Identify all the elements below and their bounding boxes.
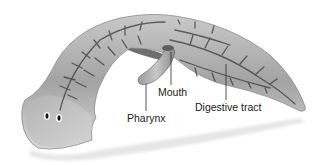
planarian-diagram: Mouth Pharynx Digestive tract (0, 0, 332, 165)
mouth-opening (162, 45, 174, 51)
left-eye-spot (46, 113, 49, 119)
label-digestive-tract: Digestive tract (195, 102, 262, 113)
right-eye-spot (58, 115, 61, 121)
label-mouth: Mouth (158, 87, 187, 98)
label-pharynx: Pharynx (127, 113, 166, 124)
planarian-illustration (0, 0, 332, 165)
